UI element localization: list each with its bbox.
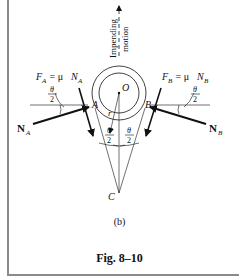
radius-label: r bbox=[108, 108, 112, 118]
svg-text:= μ: = μ bbox=[47, 71, 66, 82]
svg-text:2: 2 bbox=[127, 136, 131, 145]
free-body-diagram: Impending motion O r A B C F A = μ N A bbox=[0, 0, 239, 279]
normal-a-label: N A bbox=[17, 122, 31, 137]
normal-b-label: N B bbox=[209, 122, 223, 137]
geometry-lines bbox=[95, 93, 145, 193]
svg-text:θ: θ bbox=[107, 126, 111, 135]
angle-arc-b bbox=[178, 105, 179, 114]
friction-force-a-arrow-icon bbox=[79, 88, 93, 136]
center-point bbox=[118, 92, 120, 94]
friction-b-label: F B = μ N B bbox=[161, 71, 209, 85]
half-angle-label-right-ref: θ 2 bbox=[191, 85, 200, 104]
svg-text:θ: θ bbox=[193, 85, 197, 94]
angle-arc-a bbox=[60, 105, 61, 114]
figure-caption: Fig. 8–10 bbox=[0, 251, 239, 266]
impending-motion-indicator: Impending motion bbox=[108, 6, 130, 58]
half-angle-label-c-left: θ 2 bbox=[105, 126, 114, 145]
motion-label-line1: Impending bbox=[108, 19, 118, 58]
subfigure-label: (b) bbox=[0, 216, 239, 227]
center-label: O bbox=[122, 82, 129, 93]
svg-text:A: A bbox=[25, 129, 31, 137]
svg-text:2: 2 bbox=[193, 95, 197, 104]
svg-text:2: 2 bbox=[107, 136, 111, 145]
half-angle-label-c-right: θ 2 bbox=[125, 126, 134, 145]
friction-a-label: F A = μ N A bbox=[35, 71, 83, 85]
svg-text:A: A bbox=[77, 77, 83, 85]
svg-text:θ: θ bbox=[127, 126, 131, 135]
motion-label-line2: motion bbox=[120, 26, 130, 52]
point-c-label: C bbox=[108, 191, 115, 202]
svg-text:N: N bbox=[209, 122, 217, 134]
point-a-label: A bbox=[91, 99, 99, 110]
svg-text:2: 2 bbox=[50, 95, 54, 104]
svg-text:B: B bbox=[218, 129, 223, 137]
svg-text:N: N bbox=[17, 122, 25, 134]
friction-force-b-arrow-icon bbox=[146, 88, 161, 136]
svg-text:B: B bbox=[204, 77, 209, 85]
point-b-label: B bbox=[145, 99, 151, 110]
svg-text:= μ: = μ bbox=[173, 71, 192, 82]
svg-text:θ: θ bbox=[50, 85, 54, 94]
